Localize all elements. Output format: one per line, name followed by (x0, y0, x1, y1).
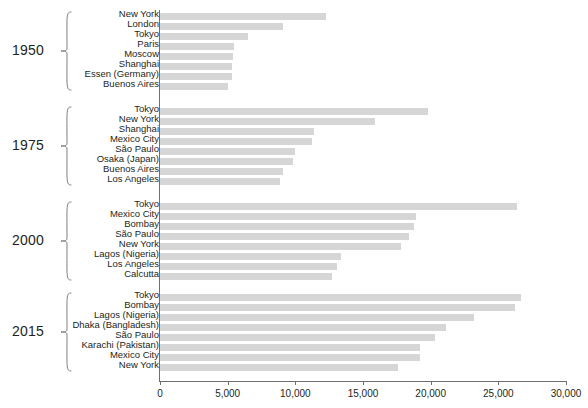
bar-row: New York (0, 241, 588, 251)
bar-row: Calcutta (0, 271, 588, 281)
bar-category-label: Buenos Aires (103, 79, 159, 89)
axis-tick-label: 0 (157, 388, 163, 399)
axis-tick-label: 10,000 (280, 388, 311, 399)
bar (160, 233, 409, 240)
axis-tick (160, 381, 161, 385)
axis-tick-label: 5,000 (215, 388, 240, 399)
axis-tick-label: 15,000 (348, 388, 379, 399)
bar-row: Buenos Aires (0, 81, 588, 91)
axis-tick-label: 30,000 (551, 388, 582, 399)
bar-row: Dhaka (Bangladesh) (0, 322, 588, 332)
bar-row: Mexico City (0, 352, 588, 362)
bar-row: New York (0, 362, 588, 372)
axis-tick (431, 381, 432, 385)
bar (160, 223, 414, 230)
bar (160, 253, 341, 260)
axis-tick (295, 381, 296, 385)
bar-rows: New YorkLondonTokyoParisMoscowShanghaiEs… (0, 11, 588, 91)
bar-row: Mexico City (0, 211, 588, 221)
bar-category-label: Calcutta (124, 269, 159, 279)
bar-row: Paris (0, 41, 588, 51)
bar-row: Bombay (0, 221, 588, 231)
bar-row: Bombay (0, 302, 588, 312)
bar-row: Mexico City (0, 136, 588, 146)
bar-row: Moscow (0, 51, 588, 61)
bar (160, 148, 295, 155)
bar-group-1975: 1975TokyoNew YorkShanghaiMexico CitySão … (0, 106, 588, 186)
bar-rows: TokyoNew YorkShanghaiMexico CitySão Paul… (0, 106, 588, 186)
bar (160, 304, 515, 311)
bar-row: Karachi (Pakistan) (0, 342, 588, 352)
bar (160, 53, 233, 60)
bar (160, 108, 428, 115)
bar (160, 128, 314, 135)
axis-tick-label: 25,000 (483, 388, 514, 399)
bar-row: Tokyo (0, 31, 588, 41)
bar (160, 73, 232, 80)
bar-row: Essen (Germany) (0, 71, 588, 81)
bar-rows: TokyoMexico CityBombaySão PauloNew YorkL… (0, 201, 588, 281)
bar-row: Tokyo (0, 106, 588, 116)
bar (160, 168, 283, 175)
bar-rows: TokyoBombayLagos (Nigeria)Dhaka (Banglad… (0, 292, 588, 372)
bar-group-2000: 2000TokyoMexico CityBombaySão PauloNew Y… (0, 201, 588, 281)
bar (160, 263, 337, 270)
bar-row: Los Angeles (0, 261, 588, 271)
bar-row: Buenos Aires (0, 166, 588, 176)
bar (160, 354, 420, 361)
bar-row: Tokyo (0, 201, 588, 211)
bar-row: New York (0, 116, 588, 126)
bar (160, 158, 293, 165)
bar-row: Los Angeles (0, 176, 588, 186)
bar (160, 273, 332, 280)
bar-row: Lagos (Nigeria) (0, 251, 588, 261)
bar-category-label: Los Angeles (107, 174, 159, 184)
bar (160, 33, 248, 40)
bar (160, 43, 234, 50)
bar (160, 83, 228, 90)
bar-row: London (0, 21, 588, 31)
bar (160, 13, 326, 20)
bar (160, 178, 280, 185)
bar-row: São Paulo (0, 146, 588, 156)
axis-tick (566, 381, 567, 385)
bar-row: Osaka (Japan) (0, 156, 588, 166)
axis-tick (228, 381, 229, 385)
bar (160, 344, 420, 351)
bar (160, 213, 416, 220)
bar (160, 63, 232, 70)
bar (160, 334, 435, 341)
bar (160, 324, 446, 331)
bar (160, 314, 474, 321)
axis-tick-label: 20,000 (415, 388, 446, 399)
bar-row: São Paulo (0, 231, 588, 241)
population-bar-chart: 1950New YorkLondonTokyoParisMoscowShangh… (0, 0, 588, 408)
bar (160, 364, 398, 371)
bar-group-2015: 2015TokyoBombayLagos (Nigeria)Dhaka (Ban… (0, 292, 588, 372)
bar (160, 294, 521, 301)
bar (160, 23, 283, 30)
bar-category-label: New York (119, 360, 159, 370)
bar-row: New York (0, 11, 588, 21)
axis-tick (498, 381, 499, 385)
bar (160, 118, 375, 125)
bar (160, 138, 312, 145)
bar-row: Shanghai (0, 126, 588, 136)
bar-row: Tokyo (0, 292, 588, 302)
bar-group-1950: 1950New YorkLondonTokyoParisMoscowShangh… (0, 11, 588, 91)
axis-tick (363, 381, 364, 385)
bar (160, 243, 401, 250)
bar (160, 203, 517, 210)
